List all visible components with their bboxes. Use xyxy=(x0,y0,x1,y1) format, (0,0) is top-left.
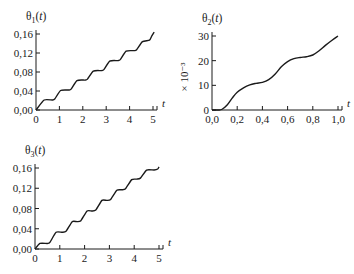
chart-title: θ1(t) xyxy=(26,10,47,25)
x-axis-label: t xyxy=(168,236,172,248)
x-tick-label: 3 xyxy=(107,252,113,264)
x-tick-label: 2 xyxy=(82,252,88,264)
y-tick-label: 10 xyxy=(198,79,210,91)
x-tick-label: 0,2 xyxy=(230,113,244,125)
x-tick-label: 3 xyxy=(103,113,109,125)
chart-theta3: 0,000,040,080,120,16012345tθ3(t) xyxy=(13,144,172,264)
x-tick-label: 4 xyxy=(131,252,137,264)
x-tick-label: 0,4 xyxy=(256,113,270,125)
figure: 0,000,040,080,120,16012345tθ1(t) 0102030… xyxy=(0,0,354,274)
x-tick-label: 2 xyxy=(80,113,86,125)
x-tick-label: 0,6 xyxy=(281,113,295,125)
x-tick-label: 0,8 xyxy=(306,113,320,125)
y-tick-label: 0,04 xyxy=(14,85,34,97)
chart-title: θ3(t) xyxy=(25,144,46,159)
y-tick-label: 0,12 xyxy=(13,182,32,194)
x-tick-label: 1 xyxy=(57,252,63,264)
y-tick-label: 0,00 xyxy=(14,104,34,116)
series-line xyxy=(36,32,154,110)
series-line xyxy=(35,167,159,249)
x-tick-label: 0,0 xyxy=(205,113,219,125)
y-tick-label: 20 xyxy=(198,55,210,67)
series-line xyxy=(212,36,338,110)
x-axis-label: t xyxy=(347,97,351,109)
chart-theta2: 01020300,00,20,40,60,81,0tθ2(t)× 10⁻³ xyxy=(178,12,351,125)
y-tick-label: 0,08 xyxy=(13,203,33,215)
x-tick-label: 0 xyxy=(32,252,38,264)
x-tick-label: 1,0 xyxy=(331,113,345,125)
chart-title: θ2(t) xyxy=(202,12,223,27)
y-axis-label: × 10⁻³ xyxy=(178,62,190,92)
x-tick-label: 1 xyxy=(57,113,63,125)
x-tick-label: 0 xyxy=(33,113,39,125)
y-tick-label: 0,12 xyxy=(14,47,33,59)
chart-theta1: 0,000,040,080,120,16012345tθ1(t) xyxy=(14,10,166,125)
x-tick-label: 5 xyxy=(150,113,156,125)
x-tick-label: 5 xyxy=(156,252,162,264)
y-tick-label: 0,04 xyxy=(13,223,33,235)
x-axis-label: t xyxy=(162,97,166,109)
y-tick-label: 0,00 xyxy=(13,243,33,255)
y-tick-label: 0,16 xyxy=(13,162,33,174)
y-tick-label: 0,08 xyxy=(14,66,34,78)
y-tick-label: 0,16 xyxy=(14,28,34,40)
y-tick-label: 30 xyxy=(198,30,210,42)
x-tick-label: 4 xyxy=(127,113,133,125)
